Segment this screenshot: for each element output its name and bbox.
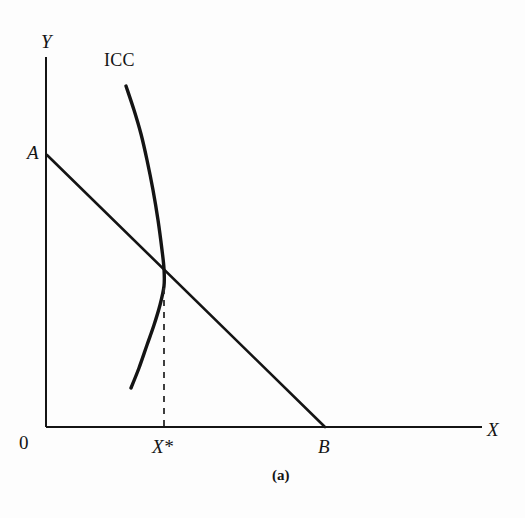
- figure-caption: (a): [272, 468, 290, 483]
- point-a-label: A: [27, 143, 39, 162]
- point-b-label: B: [318, 437, 330, 456]
- budget-line-ab: [47, 155, 325, 427]
- x-axis-label: X: [487, 420, 499, 439]
- x-star-label: X*: [152, 437, 173, 456]
- y-axis-label: Y: [41, 32, 52, 51]
- origin-label: 0: [19, 433, 29, 452]
- figure-container: Y ICC A 0 X* B X (a): [0, 0, 525, 518]
- diagram-canvas: [0, 0, 525, 518]
- icc-curve-label: ICC: [104, 51, 135, 69]
